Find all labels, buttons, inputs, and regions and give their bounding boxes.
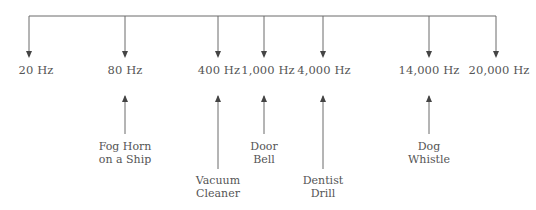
frequency-label-14000hz: 14,000 Hz bbox=[399, 63, 460, 77]
source-label-line: Dentist bbox=[303, 174, 343, 187]
frequency-label-20000hz: 20,000 Hz bbox=[469, 63, 530, 77]
source-label-line: Dog bbox=[408, 140, 450, 153]
source-label-dentist-drill: Dentist Drill bbox=[303, 174, 343, 200]
down-arrows bbox=[26, 16, 499, 58]
source-label-door-bell: Door Bell bbox=[250, 140, 277, 166]
frequency-label-1000hz: 1,000 Hz bbox=[241, 63, 294, 77]
source-label-dog-whistle: Dog Whistle bbox=[408, 140, 450, 166]
frequency-label-4000hz: 4,000 Hz bbox=[297, 63, 350, 77]
source-label-line: Whistle bbox=[408, 153, 450, 166]
source-label-line: on a Ship bbox=[99, 153, 152, 166]
source-label-line: Cleaner bbox=[196, 187, 240, 200]
frequency-label-20hz: 20 Hz bbox=[19, 63, 54, 77]
source-label-line: Door bbox=[250, 140, 277, 153]
source-label-line: Drill bbox=[303, 187, 343, 200]
connector-lines bbox=[0, 0, 536, 210]
frequency-label-80hz: 80 Hz bbox=[108, 63, 143, 77]
source-label-line: Vacuum bbox=[196, 174, 240, 187]
source-label-vacuum-cleaner: Vacuum Cleaner bbox=[196, 174, 240, 200]
source-label-fog-horn: Fog Horn on a Ship bbox=[99, 140, 152, 166]
source-label-line: Bell bbox=[250, 153, 277, 166]
source-label-line: Fog Horn bbox=[99, 140, 152, 153]
frequency-label-400hz: 400 Hz bbox=[198, 63, 240, 77]
